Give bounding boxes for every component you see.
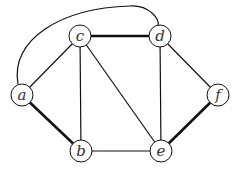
edges: [17, 6, 218, 151]
node-label-b: b: [76, 142, 86, 160]
node-d: d: [149, 25, 171, 47]
edge-e-f: [161, 95, 218, 151]
edge-a-d: [17, 6, 158, 84]
node-label-c: c: [76, 27, 85, 45]
node-label-e: e: [157, 142, 166, 160]
edge-c-b: [80, 36, 81, 151]
edge-d-e: [160, 36, 161, 151]
edge-c-e: [80, 36, 161, 151]
node-label-d: d: [155, 27, 165, 45]
node-e: e: [150, 140, 172, 162]
edge-a-c: [22, 36, 80, 95]
node-a: a: [11, 84, 33, 106]
graph-diagram: a b c d e f: [0, 0, 245, 170]
node-c: c: [69, 25, 91, 47]
node-f: f: [207, 84, 229, 106]
node-b: b: [70, 140, 92, 162]
edge-d-f: [160, 36, 218, 95]
edge-a-b: [22, 95, 81, 151]
node-label-a: a: [18, 86, 27, 104]
